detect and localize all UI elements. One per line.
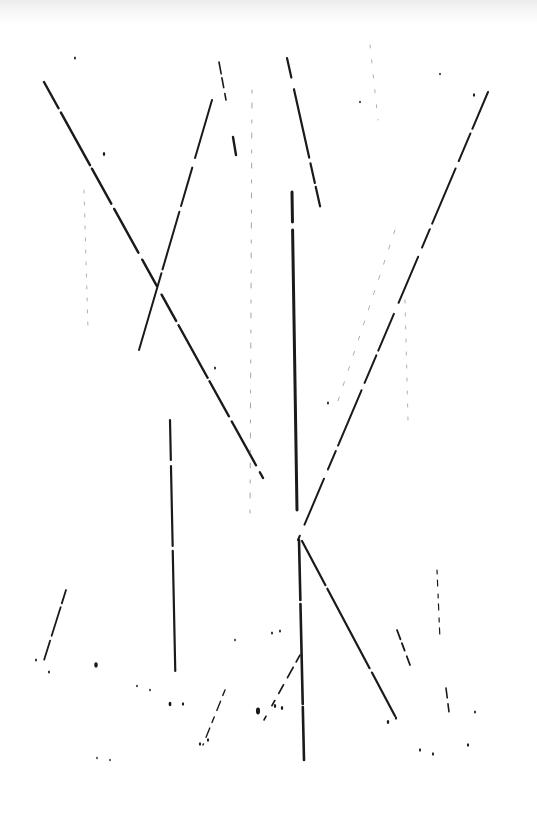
stroke-diag-bottom-left [40, 590, 66, 673]
ink-speck [359, 101, 361, 104]
stroke-diag-right-bottom-short [397, 630, 410, 665]
ink-speck [74, 56, 76, 59]
ink-speck [35, 658, 37, 661]
stroke-vertical-right-faint [437, 570, 440, 640]
ink-speck [169, 702, 172, 707]
ink-speck [432, 752, 434, 755]
ink-speck [149, 689, 151, 692]
ink-speck [271, 631, 273, 634]
ink-speck [94, 662, 98, 668]
ink-speck [48, 670, 50, 673]
stroke-vertical-center-lower [299, 540, 304, 760]
ink-speck [136, 685, 138, 688]
stroke-diag-left-up [139, 100, 212, 350]
ink-speck [473, 93, 475, 97]
stroke-vertical-center-upper [292, 192, 297, 510]
stroke-diag-right-long [298, 92, 488, 540]
ink-speck [234, 639, 236, 642]
ink-speck [256, 708, 260, 715]
ink-speck [439, 73, 441, 76]
stroke-diag-top-short-a [219, 62, 226, 100]
ink-speck [103, 152, 105, 156]
stroke-faint-vertical-3 [405, 300, 408, 420]
ink-speck [199, 742, 201, 746]
stroke-diag-right-lower [302, 541, 395, 716]
ink-speck [281, 706, 283, 710]
ink-speck [279, 629, 281, 632]
stroke-faint-diag-1 [370, 45, 378, 120]
ink-speck [387, 720, 390, 724]
ink-speck [474, 710, 476, 713]
stroke-faint-vertical-1 [84, 190, 88, 330]
ink-speck [214, 366, 216, 369]
ink-specks [35, 56, 476, 761]
stroke-diag-top-short-b [233, 137, 236, 155]
ink-speck [467, 743, 469, 747]
ink-speck [207, 738, 209, 742]
ink-speck [182, 702, 184, 706]
ink-speck [327, 401, 329, 404]
ink-line-artwork [0, 0, 537, 823]
ink-speck [109, 759, 110, 761]
stroke-diag-left-long [44, 82, 263, 478]
stroke-diag-bottom-center [264, 655, 300, 720]
ink-speck [395, 716, 397, 720]
stroke-vertical-left [170, 420, 176, 706]
ink-speck [419, 748, 421, 751]
ink-strokes [40, 45, 488, 760]
ink-speck [96, 757, 97, 759]
stroke-diag-bottom-center-b [203, 690, 225, 745]
stroke-diag-right-bottom-b [446, 688, 450, 720]
ink-speck [274, 704, 276, 708]
